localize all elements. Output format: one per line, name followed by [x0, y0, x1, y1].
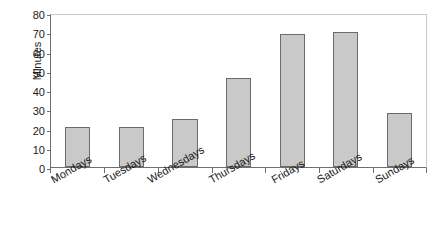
- y-axis-tick-mark: [47, 15, 51, 16]
- x-label-slot: Saturdays: [319, 174, 373, 232]
- y-axis-tick-mark: [47, 34, 51, 35]
- x-label-slot: Wednesdays: [158, 174, 212, 232]
- x-label-slot: Thursdays: [212, 174, 266, 232]
- y-axis-tick-mark: [47, 131, 51, 132]
- bar-slot: [51, 15, 105, 167]
- bar-slot: [372, 15, 426, 167]
- y-axis-tick-mark: [47, 150, 51, 151]
- bar-slot: [105, 15, 159, 167]
- x-axis-tick-mark: [50, 168, 51, 173]
- x-label-slot: Mondays: [50, 174, 104, 232]
- plot-area: 01020304050607080: [50, 14, 427, 168]
- y-axis-tick-mark: [47, 92, 51, 93]
- x-axis-tick-mark: [373, 168, 374, 173]
- x-axis-tick-mark: [265, 168, 266, 173]
- bar-slot: [212, 15, 266, 167]
- bar-saturdays: [333, 32, 358, 167]
- y-axis-tick-mark: [47, 73, 51, 74]
- x-label-slot: Fridays: [265, 174, 319, 232]
- x-label-slot: Sundays: [373, 174, 427, 232]
- bar-slot: [319, 15, 373, 167]
- bar-chart-figure: Minutes 01020304050607080 MondaysTuesday…: [0, 0, 432, 234]
- y-axis-tick-mark: [47, 111, 51, 112]
- y-axis-tick-mark: [47, 54, 51, 55]
- x-axis-tick-mark: [426, 168, 427, 173]
- bar-slot: [265, 15, 319, 167]
- bars-layer: [51, 15, 426, 167]
- bar-slot: [158, 15, 212, 167]
- bar-fridays: [280, 34, 305, 167]
- x-axis-tick-labels: MondaysTuesdaysWednesdaysThursdaysFriday…: [50, 174, 427, 232]
